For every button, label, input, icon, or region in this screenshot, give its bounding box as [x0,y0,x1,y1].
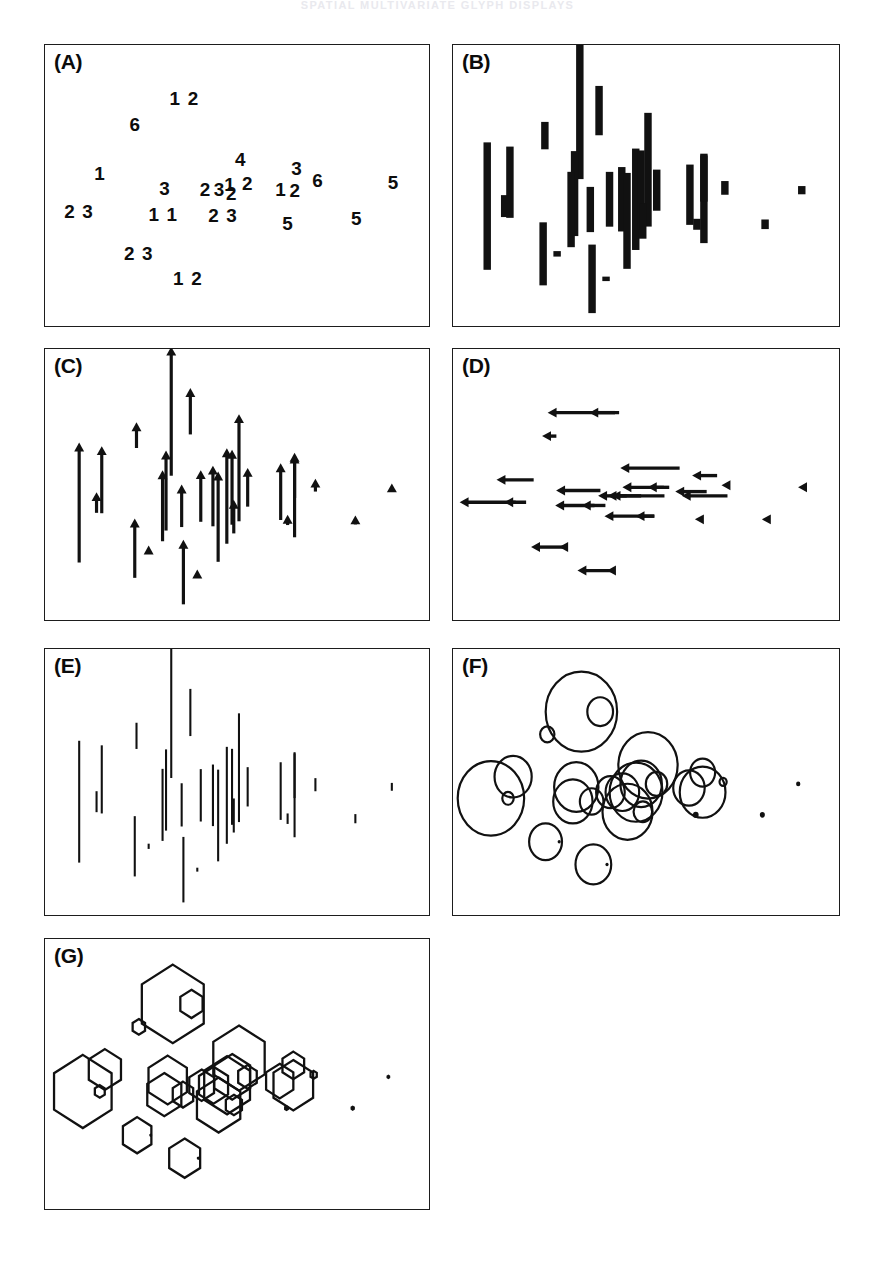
thick-bar-glyph [623,173,630,269]
thick-bar-glyph [653,170,660,211]
panel-g: (G) [44,938,430,1210]
circle-glyph [605,863,608,867]
up-arrow-glyph [222,448,232,543]
digit-glyph: 2 [242,173,254,194]
digit-glyph: 4 [235,149,247,170]
thick-bar-glyph [539,222,546,285]
left-arrow-glyph [460,497,526,507]
up-arrow-glyph [310,479,320,492]
up-arrow-glyph [213,471,223,561]
up-arrow-glyph [196,470,206,522]
thick-bar-glyph [541,122,548,149]
hexagon-glyph [169,1139,200,1178]
left-arrow-glyph [620,463,679,473]
panel-b: (B) [452,44,840,327]
left-arrow-glyph [798,482,807,492]
thick-bar-glyph [693,219,700,230]
up-arrow-glyph [276,463,286,520]
hexagon-glyph [142,965,204,1044]
panel-d: (D) [452,348,840,621]
panel-e-label: (E) [54,654,81,678]
digit-glyph: 3 [159,178,171,199]
digit-glyph: 1 2 [173,268,203,289]
left-arrow-glyph [559,542,568,552]
digit-glyph: 1 [224,174,236,195]
thick-bar-glyph [761,219,768,229]
left-arrow-glyph [504,497,515,507]
digit-glyph: 2 [289,180,301,201]
panel-b-plot [453,45,839,326]
circle-glyph [760,812,765,818]
thick-bar-glyph [721,181,728,195]
digit-glyph: 5 [388,172,400,193]
panel-b-label: (B) [462,50,490,74]
panel-g-plot [45,939,429,1209]
circle-glyph [690,759,715,787]
panel-d-plot [453,349,839,620]
left-arrow-glyph [582,501,606,511]
panel-c: (C) [44,348,430,621]
thick-bar-glyph [483,142,490,269]
panel-a-label: (A) [54,50,82,74]
digit-glyph: 6 [312,170,324,191]
up-arrow-glyph [227,450,237,525]
digit-glyph: 1 [94,163,106,184]
circle-glyph [634,801,653,822]
thick-bar-glyph [686,165,693,225]
up-arrow-glyph [243,468,253,507]
digit-glyph: 2 [200,179,212,200]
thick-bar-glyph [587,187,594,232]
up-arrow-glyph [177,484,187,527]
panel-f-label: (F) [462,654,488,678]
circle-glyph [587,697,613,726]
digit-glyph: 1 1 [149,204,179,225]
panel-g-label: (G) [54,944,83,968]
panel-a-plot: 1 2641332321212652 31 12 3552 31 2 [45,45,429,326]
left-arrow-glyph [612,491,665,501]
hexagon-glyph [123,1117,151,1153]
circle-glyph [546,672,617,752]
left-arrow-glyph [542,431,556,441]
digit-glyph: 5 [282,213,294,234]
left-arrow-glyph [607,566,616,576]
left-arrow-glyph [722,480,731,490]
figure-root: SPATIAL MULTIVARIATE GLYPH DISPLAYS 1 26… [0,0,875,1265]
circle-glyph [529,823,562,860]
up-arrow-glyph [290,453,300,498]
left-arrow-glyph [692,471,717,481]
up-arrow-glyph [229,500,239,534]
digit-glyph: 5 [351,208,363,229]
hexagon-glyph [180,990,202,1018]
digit-glyph: 2 3 [208,205,238,226]
left-arrow-glyph [531,542,564,552]
panel-f: (F) [452,648,840,916]
left-arrow-glyph [762,514,771,524]
hexagon-glyph [351,1105,355,1110]
left-arrow-glyph [589,408,615,418]
panel-d-label: (D) [462,354,490,378]
panel-a: 1 2641332321212652 31 12 3552 31 2 (A) [44,44,430,327]
up-arrow-glyph [74,442,84,562]
digit-glyph: 2 3 [124,243,154,264]
up-arrow-glyph [283,515,293,525]
up-arrow-glyph [350,515,360,524]
digit-glyph: 2 3 [64,201,94,222]
panel-e: (E) [44,648,430,916]
digit-glyph: 6 [129,114,141,135]
hexagon-glyph [133,1019,145,1035]
up-arrow-glyph [185,388,195,434]
digit-glyph: 1 2 [170,88,200,109]
thick-bar-glyph [567,172,574,247]
thick-bar-glyph [798,186,805,194]
left-arrow-glyph [648,482,669,492]
panel-c-label: (C) [54,354,82,378]
thick-bar-glyph [595,86,602,135]
thick-bar-glyph [501,195,508,217]
digit-glyph: 3 [291,158,303,179]
thick-bar-glyph [639,203,646,239]
panel-e-plot [45,649,429,915]
panel-f-plot [453,649,839,915]
up-arrow-glyph [92,492,102,513]
panel-c-plot [45,349,429,620]
up-arrow-glyph [192,570,202,579]
